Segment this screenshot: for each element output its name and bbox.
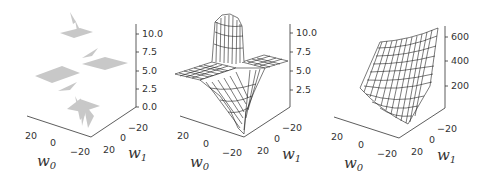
z-tick-label: 10.0 xyxy=(296,27,317,38)
wireframe-surface xyxy=(175,14,288,134)
x-tick-label: −20 xyxy=(70,146,90,157)
z-tick-label: 2.5 xyxy=(142,83,157,94)
y-tick-label: 0 xyxy=(120,132,126,143)
y-tick-label: −20 xyxy=(437,123,457,134)
z-ticks xyxy=(290,33,293,90)
z-ticks xyxy=(136,34,139,107)
x-tick-label: 0 xyxy=(203,138,209,149)
x-tick-label: 20 xyxy=(25,130,37,141)
z-tick-label: 7.5 xyxy=(296,46,311,57)
surface-plot-2: 2.5 5.0 7.5 10.0 20 0 −20 −20 0 xyxy=(160,0,323,179)
plot-panel-1: 0.0 2.5 5.0 7.5 10.0 20 0 −20 −20 0 20 w… xyxy=(0,0,163,179)
surface-facets xyxy=(35,12,128,128)
y-tick-label: −20 xyxy=(282,122,302,133)
z-tick-label: 200 xyxy=(451,80,469,91)
x-tick-label: 20 xyxy=(177,130,189,141)
y-tick-label: 20 xyxy=(103,144,115,155)
axes-frame xyxy=(27,24,136,137)
x-tick-label: 20 xyxy=(331,131,343,142)
surface-plot-1: 0.0 2.5 5.0 7.5 10.0 20 0 −20 −20 0 20 w… xyxy=(0,0,163,179)
y-tick-label: −20 xyxy=(128,122,148,133)
z-tick-label: 0.0 xyxy=(142,101,157,112)
z-ticks xyxy=(445,37,448,86)
surface-plot-3: 200 400 600 20 0 −20 −20 0 20 w0 w1 xyxy=(320,0,488,179)
x-tick-label: 0 xyxy=(50,137,56,148)
x-tick-label: −20 xyxy=(377,148,397,159)
z-tick-label: 2.5 xyxy=(296,84,311,95)
z-tick-label: 600 xyxy=(451,31,469,42)
plot-panel-2: 2.5 5.0 7.5 10.0 20 0 −20 −20 0 xyxy=(160,0,323,179)
wireframe-surface xyxy=(360,28,438,124)
y-tick-label: 0 xyxy=(429,134,435,145)
z-tick-label: 400 xyxy=(451,55,469,66)
z-tick-label: 7.5 xyxy=(142,46,157,57)
y-axis-label: w1 xyxy=(282,145,301,164)
x-tick-label: −20 xyxy=(222,147,242,158)
x-axis-label: w0 xyxy=(37,152,57,171)
z-tick-label: 5.0 xyxy=(296,65,311,76)
x-axis-label: w0 xyxy=(190,153,210,172)
y-axis-label: w1 xyxy=(437,146,456,165)
plot-panel-3: 200 400 600 20 0 −20 −20 0 20 w0 w1 xyxy=(320,0,483,179)
y-tick-label: 20 xyxy=(257,145,269,156)
y-tick-label: 20 xyxy=(411,146,423,157)
y-axis-label: w1 xyxy=(128,144,147,163)
z-tick-label: 5.0 xyxy=(142,65,157,76)
x-axis-label: w0 xyxy=(344,154,364,173)
y-tick-label: 0 xyxy=(274,133,280,144)
x-tick-label: 0 xyxy=(358,139,364,150)
